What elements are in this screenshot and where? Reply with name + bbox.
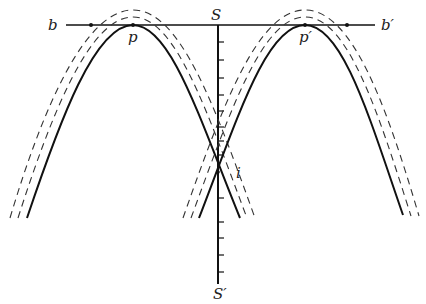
label-s: S — [211, 6, 221, 24]
left-dot-marker — [89, 23, 93, 27]
diagram-figure: b b′ S S′ p p′ i — [0, 0, 426, 304]
label-b: b — [48, 16, 58, 34]
right-solid-curve — [199, 25, 403, 218]
label-p-prime: p′ — [299, 28, 313, 46]
label-b-prime: b′ — [381, 16, 395, 34]
crossing-point-marker — [216, 170, 220, 174]
label-s-prime: S′ — [213, 285, 227, 303]
right-dot-marker — [345, 23, 349, 27]
right-dashed-curve-1 — [191, 17, 411, 218]
point-p-marker — [131, 23, 135, 27]
label-i: i — [236, 164, 241, 182]
left-dashed-curve-1 — [18, 17, 247, 218]
left-solid-curve — [27, 25, 240, 218]
diagram-canvas: b b′ S S′ p p′ i — [0, 0, 426, 304]
point-p-prime-marker — [303, 23, 307, 27]
label-p: p — [128, 28, 138, 46]
